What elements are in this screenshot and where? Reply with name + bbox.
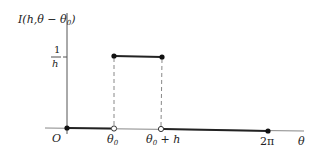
baseline-segment-left <box>67 128 111 129</box>
origin-closed-dot <box>64 125 69 130</box>
two-pi-closed-dot <box>265 128 270 133</box>
top-right-closed-dot <box>159 54 164 59</box>
top-segment <box>114 56 162 57</box>
step-function-diagram: I(h,θ − θ0) 1 h O θ0 θ0 + h 2π θ <box>0 0 324 150</box>
theta0-open-dot <box>111 126 116 131</box>
dashed-guide-theta0-plus-h <box>161 59 162 126</box>
y-axis-label: I(h,θ − θ0) <box>17 13 75 27</box>
y-tick-denominator: h <box>52 58 58 69</box>
theta0-plus-h-open-dot <box>158 126 163 131</box>
top-left-closed-dot <box>111 53 116 58</box>
x-axis-label: θ <box>298 135 305 148</box>
y-tick-numerator: 1 <box>54 44 60 55</box>
baseline-segment-right <box>164 129 268 131</box>
x-tick-theta0: θ0 <box>107 133 119 147</box>
origin-label: O <box>52 132 61 145</box>
x-tick-two-pi: 2π <box>260 135 274 148</box>
x-tick-theta0-plus-h: θ0 + h <box>146 133 180 147</box>
